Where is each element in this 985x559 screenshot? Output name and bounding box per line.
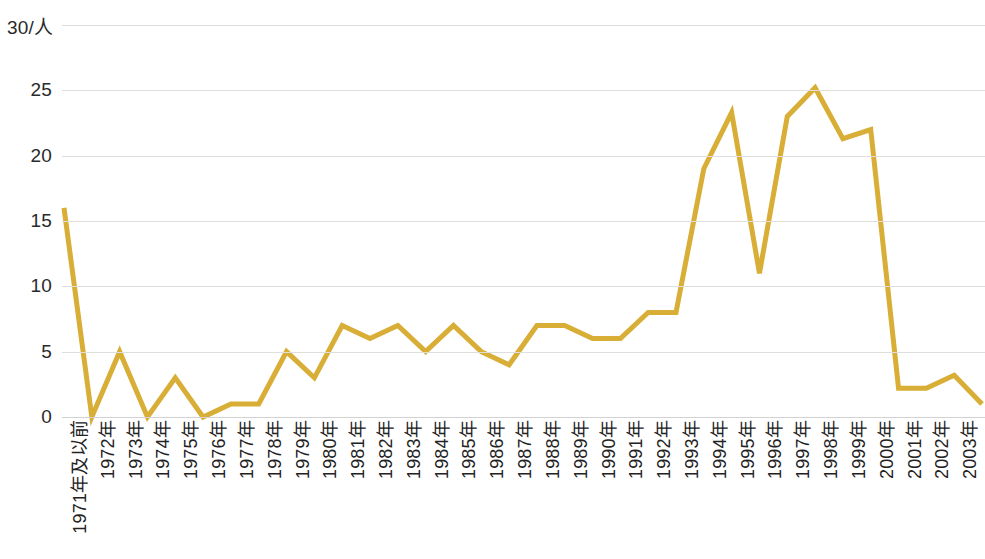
x-axis-tick-label: 1992年 xyxy=(655,420,673,479)
x-axis-tick-label: 1982年 xyxy=(377,420,395,479)
gridline-30 xyxy=(62,25,985,26)
gridline-25 xyxy=(62,90,985,91)
gridline-10 xyxy=(62,286,985,287)
y-axis-tick-label: 5 xyxy=(41,341,52,363)
x-axis-tick-label: 2001年 xyxy=(906,420,924,479)
x-axis-tick-label: 1987年 xyxy=(516,420,534,479)
x-axis-tick-label: 1983年 xyxy=(405,420,423,479)
x-axis-tick-label: 1997年 xyxy=(794,420,812,479)
gridline-15 xyxy=(62,221,985,222)
x-axis-tick-label: 1977年 xyxy=(238,420,256,479)
y-axis-tick-label: 20 xyxy=(30,145,52,167)
x-axis-tick-label: 1973年 xyxy=(127,420,145,479)
y-axis-tick-label: 10 xyxy=(30,275,52,297)
x-axis-tick-label: 1999年 xyxy=(850,420,868,479)
x-axis-tick-label: 1981年 xyxy=(349,420,367,479)
x-axis-tick-label: 1991年 xyxy=(627,420,645,479)
x-axis-tick-label: 1985年 xyxy=(460,420,478,479)
series-line xyxy=(62,0,985,430)
x-axis: 1971年及以前1972年1973年1974年1975年1976年1977年19… xyxy=(62,420,985,559)
x-axis-tick-label: 1989年 xyxy=(572,420,590,479)
x-axis-tick-label: 2003年 xyxy=(961,420,979,479)
x-axis-tick-label: 1994年 xyxy=(711,420,729,479)
gridline-20 xyxy=(62,156,985,157)
x-axis-tick-label: 1974年 xyxy=(154,420,172,479)
gridline-0 xyxy=(62,417,985,418)
x-axis-tick-label: 1978年 xyxy=(266,420,284,479)
x-axis-tick-label: 1998年 xyxy=(822,420,840,479)
x-axis-tick-label: 1980年 xyxy=(321,420,339,479)
x-axis-tick-label: 1971年及以前 xyxy=(71,420,89,534)
x-axis-tick-label: 1986年 xyxy=(488,420,506,479)
x-axis-tick-label: 1979年 xyxy=(294,420,312,479)
y-axis-tick-label: 0 xyxy=(41,406,52,428)
x-axis-tick-label: 1995年 xyxy=(739,420,757,479)
y-axis-tick-label: 15 xyxy=(30,210,52,232)
line-chart: 051015202530/人 1971年及以前1972年1973年1974年19… xyxy=(0,0,985,559)
y-axis-tick-label: 25 xyxy=(30,79,52,101)
y-axis-unit-label: 30/人 xyxy=(7,12,53,39)
x-axis-tick-label: 1975年 xyxy=(182,420,200,479)
x-axis-tick-label: 1996年 xyxy=(766,420,784,479)
x-axis-tick-label: 1988年 xyxy=(544,420,562,479)
x-axis-tick-label: 1984年 xyxy=(433,420,451,479)
x-axis-tick-label: 2000年 xyxy=(878,420,896,479)
plot-area xyxy=(62,0,985,430)
x-axis-tick-label: 1976年 xyxy=(210,420,228,479)
x-axis-tick-label: 1993年 xyxy=(683,420,701,479)
gridline-5 xyxy=(62,352,985,353)
y-axis: 051015202530/人 xyxy=(0,0,62,430)
x-axis-tick-label: 1990年 xyxy=(600,420,618,479)
x-axis-tick-label: 2002年 xyxy=(933,420,951,479)
x-axis-tick-label: 1972年 xyxy=(99,420,117,479)
